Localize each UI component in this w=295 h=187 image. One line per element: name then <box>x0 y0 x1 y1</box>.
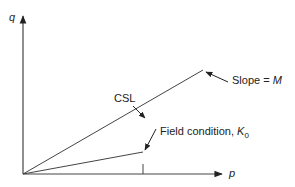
csl-line <box>23 70 203 174</box>
q-p-diagram: q p CSL Slope = M Field condition, K0 <box>0 0 295 187</box>
field-condition-label: Field condition, K0 <box>160 125 249 140</box>
csl-label: CSL <box>114 92 135 104</box>
p-axis-label: p <box>228 167 235 179</box>
slope-label: Slope = M <box>232 74 283 86</box>
csl-pointer-arrow <box>133 106 145 118</box>
field-condition-line <box>23 152 143 174</box>
field-pointer-arrow <box>145 129 156 150</box>
slope-pointer-arrow <box>206 72 228 82</box>
q-axis-label: q <box>9 11 16 23</box>
